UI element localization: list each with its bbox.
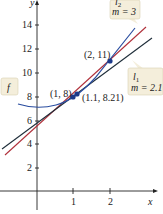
x-tick-1: 1 bbox=[71, 196, 76, 207]
chart: y x 1 2 2 4 6 8 10 12 14 (1, 8) (1.1, 8.… bbox=[0, 0, 163, 214]
y-axis-label: y bbox=[29, 0, 35, 8]
y-tick-12: 12 bbox=[22, 43, 32, 54]
svg-text:m = 3: m = 3 bbox=[112, 6, 136, 17]
label-point-2-11: (2, 11) bbox=[84, 49, 110, 61]
label-point-1-8: (1, 8) bbox=[50, 88, 72, 100]
callout-l1: l1 m = 2.1 bbox=[128, 60, 163, 95]
y-tick-6: 6 bbox=[27, 115, 32, 126]
x-axis-arrow-icon bbox=[153, 189, 158, 193]
y-tick-10: 10 bbox=[22, 67, 32, 78]
point-1.1-8.21 bbox=[74, 91, 79, 96]
y-tick-4: 4 bbox=[27, 138, 32, 149]
label-point-1.1-8.21: (1.1, 8.21) bbox=[82, 92, 124, 104]
x-axis-label: x bbox=[147, 196, 153, 207]
x-tick-2: 2 bbox=[108, 196, 113, 207]
svg-text:m = 2.1: m = 2.1 bbox=[131, 82, 162, 93]
y-tick-2: 2 bbox=[27, 162, 32, 173]
y-tick-8: 8 bbox=[27, 91, 32, 102]
callout-f: f bbox=[1, 78, 18, 95]
y-axis-arrow-icon bbox=[35, 0, 39, 5]
callout-l2: l2 m = 3 bbox=[110, 0, 140, 24]
y-tick-14: 14 bbox=[22, 19, 32, 30]
